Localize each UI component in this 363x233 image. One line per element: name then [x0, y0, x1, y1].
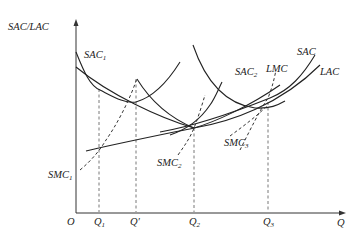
y-axis-label: SAC/LAC — [8, 21, 50, 32]
label-smc1: SMC1 — [48, 169, 73, 182]
label-sac: SAC — [297, 46, 317, 57]
cost-curves-diagram: SAC/LAC SAC1 SAC2 LMC SAC LAC SMC1 SMC2 … — [0, 0, 363, 233]
lmc-curve — [240, 70, 276, 150]
mid-sac-curve — [137, 79, 194, 128]
label-smc2: SMC2 — [157, 157, 182, 170]
tick-q2: Q2 — [189, 216, 201, 229]
label-sac1: SAC1 — [84, 49, 106, 62]
tick-qprime: Q′ — [130, 216, 141, 227]
label-sac2: SAC2 — [235, 66, 258, 79]
origin-label: O — [67, 216, 75, 227]
x-axis-label: Q — [337, 217, 345, 228]
x-axis-arrow-icon — [339, 211, 346, 216]
label-lmc: LMC — [265, 63, 289, 74]
smc1-curve — [80, 78, 137, 170]
label-lac: LAC — [319, 66, 340, 77]
tick-q3: Q3 — [263, 216, 275, 229]
smc3-curve — [230, 105, 268, 136]
tick-q1: Q1 — [94, 216, 105, 229]
y-axis-arrow-icon — [74, 19, 79, 26]
lmc-solid-curve — [86, 85, 280, 151]
